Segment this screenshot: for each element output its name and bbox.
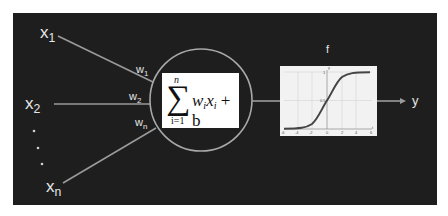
summation-box: n ∑ i=1 wixi + b	[162, 73, 239, 128]
sum-expression: wixi + b	[192, 91, 239, 131]
sigmoid-chart	[280, 66, 377, 136]
weight-w1: w1	[136, 64, 148, 78]
weight-wn: wn	[135, 117, 147, 131]
activation-plot: -6 -4 -2 0 2 4 6 1 0.5 y t	[280, 66, 377, 136]
sum-lower-limit: i=1	[171, 115, 184, 126]
sigma-icon: ∑	[166, 81, 190, 115]
output-y: y	[412, 94, 419, 107]
activation-label: f	[326, 44, 329, 55]
weight-w2: w2	[129, 91, 141, 105]
